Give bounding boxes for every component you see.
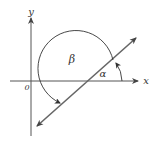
angle-diagram: x y 0 α β xyxy=(0,0,156,144)
y-axis-label: y xyxy=(27,6,34,17)
x-axis-label: x xyxy=(143,75,149,86)
alpha-label: α xyxy=(100,68,107,79)
origin-label: 0 xyxy=(24,83,29,92)
beta-label: β xyxy=(68,53,75,66)
inclined-line xyxy=(86,38,136,83)
alpha-arc xyxy=(116,63,122,81)
